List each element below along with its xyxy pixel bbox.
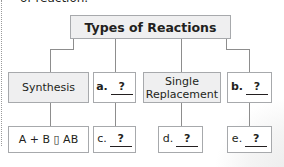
blank-d: d. ? — [163, 132, 198, 147]
blank-c-box: c. ? — [93, 126, 136, 153]
connector — [115, 103, 116, 126]
connector — [249, 49, 250, 72]
blank-a: a. ? — [96, 80, 133, 95]
blank-a-box: a. ? — [93, 72, 136, 103]
blank-b: b. ? — [231, 80, 268, 95]
blank-b-answer: ? — [246, 81, 268, 95]
blank-b-letter: b. — [231, 80, 243, 93]
blank-b-box: b. ? — [227, 72, 272, 103]
blank-a-letter: a. — [96, 80, 108, 93]
connector — [181, 39, 182, 72]
blank-d-box: d. ? — [158, 126, 203, 153]
connector — [181, 103, 182, 126]
blank-e-box: e. ? — [227, 126, 272, 153]
blank-d-letter: d. — [163, 132, 173, 145]
dotted-page-edge — [1, 0, 2, 146]
blank-d-answer: ? — [176, 133, 198, 147]
blank-c-answer: ? — [110, 133, 132, 147]
connector — [50, 49, 74, 50]
blank-a-answer: ? — [111, 81, 133, 95]
blank-c-letter: c. — [97, 132, 107, 145]
synthesis-example: A + B ▯ AB — [19, 133, 78, 146]
single-replacement-label: Single Replacement — [146, 75, 218, 101]
blank-c: c. ? — [97, 132, 132, 147]
blank-e: e. ? — [232, 132, 267, 147]
connector — [50, 49, 51, 72]
synthesis-example-box: A + B ▯ AB — [8, 126, 89, 153]
connector — [249, 103, 250, 126]
connector — [226, 49, 250, 50]
synthesis-box: Synthesis — [8, 72, 89, 103]
cut-off-heading: of reaction. — [20, 0, 88, 5]
single-replacement-box: Single Replacement — [143, 72, 221, 103]
synthesis-label: Synthesis — [22, 81, 75, 94]
diagram-title-box: Types of Reactions — [70, 15, 231, 39]
connector — [115, 39, 116, 72]
blank-e-letter: e. — [232, 132, 242, 145]
blank-e-answer: ? — [245, 133, 267, 147]
diagram-title: Types of Reactions — [85, 21, 217, 34]
connector — [50, 103, 51, 126]
